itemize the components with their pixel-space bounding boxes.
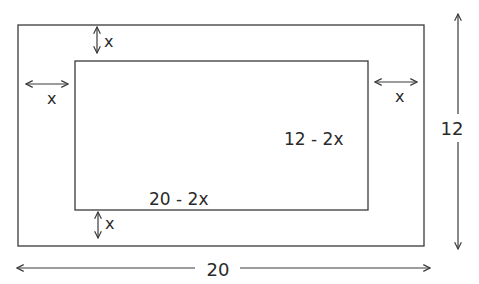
left-margin-label: x [47,89,56,108]
diagram-canvas: x x x x 12 - 2x 20 - 2x 12 20 [0,0,479,284]
outer-rectangle [18,25,424,246]
top-margin-label: x [104,32,113,51]
right-margin-label: x [395,87,404,106]
inner-height-label: 12 - 2x [284,129,343,149]
inner-width-label: 20 - 2x [149,189,208,209]
bottom-margin-label: x [105,214,114,233]
outer-width-label: 20 [207,259,230,280]
outer-height-label: 12 [441,118,464,139]
